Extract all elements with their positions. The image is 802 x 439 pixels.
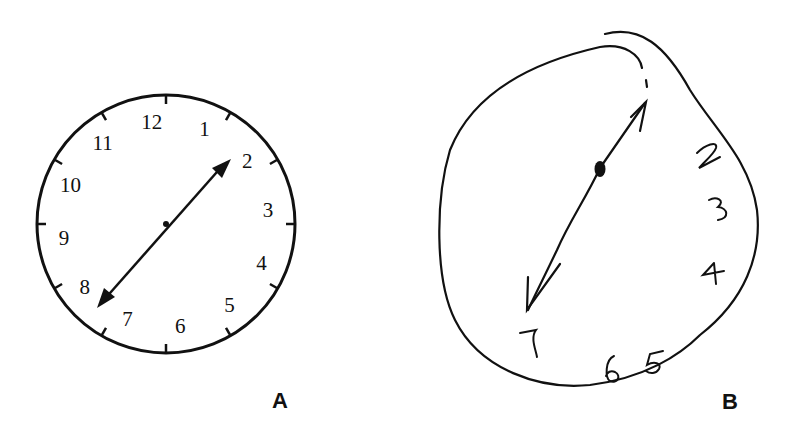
clock-a-tick	[54, 160, 62, 165]
clock-a-numeral: 12	[141, 110, 162, 134]
clock-b-arrowhead-7	[527, 264, 560, 310]
clock-b-center-dot	[595, 161, 606, 177]
clock-a-numeral: 7	[122, 307, 133, 331]
clock-a-numeral: 3	[263, 198, 274, 222]
clock-b-outline	[439, 32, 758, 386]
clock-a-face: 121234567891011	[37, 95, 295, 353]
clock-b-numeral-7	[520, 330, 537, 357]
clock-a-numeral: 6	[175, 314, 186, 338]
clock-a-tick	[270, 284, 278, 289]
clock-b-numeral-4	[703, 263, 724, 284]
clock-a-numeral: 11	[92, 131, 112, 155]
clock-a-tick	[102, 328, 107, 336]
clock-a-numeral: 2	[242, 149, 253, 173]
clock-a-tick	[102, 112, 107, 120]
clock-a-tick	[270, 160, 278, 165]
clock-a: 121234567891011	[0, 0, 802, 439]
clock-b-numeral-2	[697, 144, 720, 168]
clock-a-center-dot	[163, 221, 169, 227]
clock-b-hand-short	[600, 103, 645, 168]
clock-a-numeral: 10	[60, 173, 81, 197]
clock-a-tick	[226, 328, 231, 336]
clock-a-numeral: 9	[59, 226, 70, 250]
clock-a-tick	[54, 284, 62, 289]
clock-b-numeral-6	[606, 356, 618, 382]
clock-a-numeral: 1	[199, 117, 210, 141]
clock-a-numeral: 4	[256, 251, 267, 275]
clock-a-tick	[226, 112, 231, 120]
panel-label-b: B	[722, 389, 738, 415]
panel-label-a: A	[272, 388, 288, 414]
clock-a-hand	[103, 164, 224, 301]
clock-b-mark-1	[646, 80, 647, 87]
clock-a-numeral: 5	[224, 293, 235, 317]
clock-b-face	[439, 32, 758, 386]
clock-a-numeral: 8	[80, 275, 91, 299]
clock-b-hand-long	[528, 168, 600, 310]
clock-b-numeral-3	[709, 198, 726, 220]
